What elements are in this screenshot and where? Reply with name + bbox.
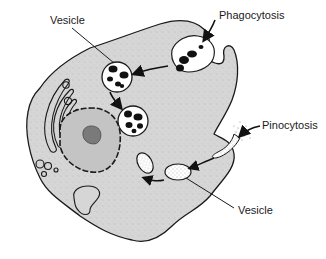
particle: [187, 51, 197, 58]
label-vesicle-bottom: Vesicle: [238, 205, 273, 216]
label-vesicle-top: Vesicle: [50, 15, 85, 26]
nucleus: [60, 108, 120, 172]
endocytosis-diagram: Vesicle Phagocytosis Pinocytosis Vesicle: [0, 0, 326, 259]
label-pinocytosis: Pinocytosis: [262, 120, 318, 131]
pinocytosis-pointer: [240, 126, 260, 136]
particle: [179, 56, 189, 64]
pinocytic-vesicle-1: [165, 164, 191, 180]
particle: [199, 45, 204, 49]
phagocytic-vesicle-2: [118, 106, 148, 136]
particle: [176, 65, 184, 72]
phagocytic-vesicle-1: [102, 62, 132, 92]
label-phagocytosis: Phagocytosis: [219, 10, 284, 21]
